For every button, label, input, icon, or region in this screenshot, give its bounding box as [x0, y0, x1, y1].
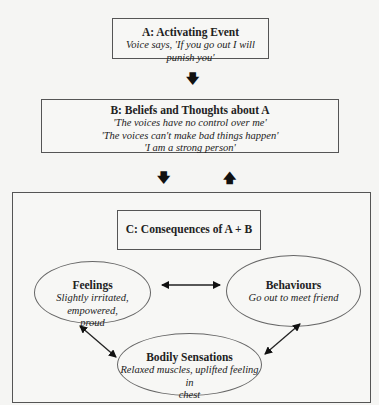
feelings-bodily-double-arrow-icon: [80, 326, 116, 357]
behaviours-bodily-double-arrow-icon: [265, 324, 300, 354]
connector-arrows: [0, 0, 379, 405]
